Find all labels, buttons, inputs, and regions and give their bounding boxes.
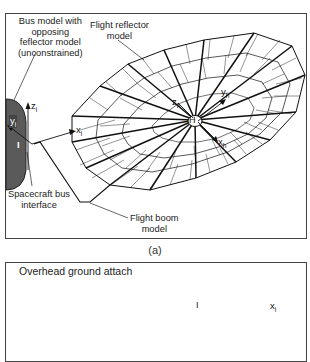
z-h-axis-label: zh: [172, 96, 180, 109]
y-i-axis-label: yl: [9, 115, 17, 128]
overhead-ground-attach-label: Overhead ground attach: [19, 266, 132, 277]
spacecraft-bus-interface-label: Spacecraft bus interface: [8, 189, 70, 210]
figure-a-caption: (a): [0, 244, 310, 256]
spacecraft-bus-shape: [6, 99, 26, 190]
x-i-axis-label-b: xi: [270, 300, 276, 313]
y-h-axis-label: yh: [221, 86, 229, 99]
flight-boom-label: Flight boom model: [130, 213, 179, 234]
h-marker-label: H: [189, 115, 196, 125]
figure-b-panel: [5, 262, 307, 362]
flight-reflector-label: Flight reflector model: [90, 20, 149, 41]
i-marker-label-b: I: [196, 300, 199, 310]
x-h-axis-label: xh: [218, 136, 226, 149]
bus-model-label: Bus model with opposing feflector model …: [18, 16, 83, 58]
x-i-axis-label: xi: [76, 124, 82, 137]
z-i-axis-label: zi: [31, 100, 37, 113]
i-marker-label: I: [17, 139, 20, 150]
